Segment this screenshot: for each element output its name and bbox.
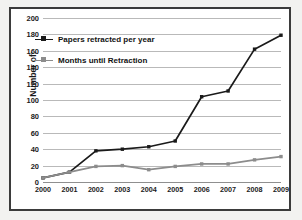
x-axis-tick-label: 2004 <box>141 185 157 194</box>
x-axis-tick-label: 2005 <box>167 185 183 194</box>
data-point-marker <box>147 168 150 171</box>
y-axis-tick-label: 100 <box>26 96 39 105</box>
x-axis-tick-label: 2002 <box>88 185 104 194</box>
data-point-marker <box>253 158 256 161</box>
data-point-marker <box>121 148 124 151</box>
legend-label: Papers retracted per year <box>58 35 155 44</box>
x-axis-tick-label: 2006 <box>194 185 210 194</box>
x-axis-tick-label: 2008 <box>247 185 263 194</box>
legend-item[interactable]: Months until Retraction <box>35 52 195 68</box>
data-point-marker <box>200 95 203 98</box>
x-axis-tick-label: 2001 <box>61 185 77 194</box>
data-point-marker <box>253 47 256 50</box>
data-point-marker <box>279 34 282 37</box>
y-axis-tick-label: 120 <box>26 79 39 88</box>
data-point-marker <box>41 176 44 179</box>
data-point-marker <box>174 139 177 142</box>
x-axis-tick-label: 2003 <box>114 185 130 194</box>
data-point-marker <box>121 164 124 167</box>
y-axis-tick-label: 200 <box>26 14 39 23</box>
x-axis-tick-labels: 2000200120022003200420052006200720082009 <box>43 185 281 201</box>
chart-legend: Papers retracted per yearMonths until Re… <box>35 31 195 73</box>
y-axis-tick-label: 60 <box>31 128 39 137</box>
x-axis-tick-label: 2009 <box>273 185 289 194</box>
data-point-marker <box>200 162 203 165</box>
gridline <box>43 182 281 183</box>
data-point-marker <box>226 162 229 165</box>
legend-marker-icon <box>35 34 53 44</box>
data-point-marker <box>226 89 229 92</box>
y-axis-tick-label: 80 <box>31 112 39 121</box>
x-axis-tick-label: 2000 <box>35 185 51 194</box>
data-point-marker <box>279 155 282 158</box>
chart-figure: Number of: 020406080100120140160180200 2… <box>0 0 302 220</box>
x-axis-tick-label: 2007 <box>220 185 236 194</box>
data-point-marker <box>94 149 97 152</box>
data-point-marker <box>94 165 97 168</box>
data-point-marker <box>147 145 150 148</box>
data-point-marker <box>174 165 177 168</box>
legend-item[interactable]: Papers retracted per year <box>35 31 195 47</box>
data-point-marker <box>68 170 71 173</box>
y-axis-tick-label: 20 <box>31 161 39 170</box>
y-axis-tick-label: 40 <box>31 145 39 154</box>
legend-marker-icon <box>35 55 53 65</box>
chart-plot-frame: Number of: 020406080100120140160180200 2… <box>9 7 291 211</box>
series-line <box>43 157 281 178</box>
legend-label: Months until Retraction <box>58 56 147 65</box>
